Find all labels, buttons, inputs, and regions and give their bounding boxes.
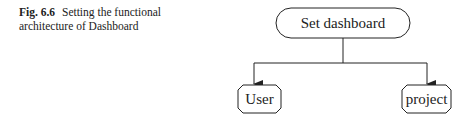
node-user: User (238, 85, 281, 113)
node-user-label: User (245, 91, 273, 107)
node-project: project (402, 85, 451, 113)
node-set-dashboard-label: Set dashboard (301, 15, 386, 31)
node-project-label: project (406, 91, 448, 107)
node-set-dashboard: Set dashboard (276, 8, 410, 38)
architecture-diagram: Set dashboard User project (0, 0, 472, 125)
